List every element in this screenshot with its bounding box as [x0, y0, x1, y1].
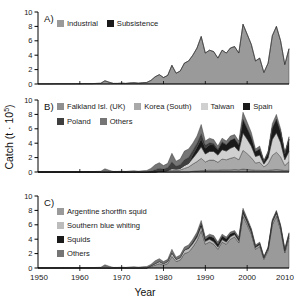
- legend-swatch-icon: [100, 118, 107, 125]
- legend-panel-b: Falkland Isl. (UK)Korea (South)TaiwanSpa…: [57, 102, 273, 126]
- x-tick-label: 1960: [71, 273, 89, 282]
- legend-row: Squids: [57, 235, 147, 244]
- y-axis-title-close: ): [3, 104, 15, 108]
- panel-b-label: B): [44, 101, 54, 112]
- figure-canvas: 0246810024681002468101950196019701980199…: [0, 0, 294, 300]
- legend-item-industrial: Industrial: [57, 19, 98, 28]
- legend-item-southern-blue-whiting: Southern blue whiting: [57, 221, 140, 230]
- legend-item-taiwan: Taiwan: [201, 102, 235, 111]
- y-tick-label: 6: [28, 124, 32, 133]
- y-tick-label: 2: [28, 65, 32, 74]
- legend-row: IndustrialSubsistence: [57, 19, 158, 28]
- x-tick-label: 2000: [238, 273, 256, 282]
- legend-swatch-icon: [107, 20, 114, 27]
- legend-item-falkland-isl-uk: Falkland Isl. (UK): [57, 102, 125, 111]
- y-tick-label: 4: [28, 51, 32, 60]
- legend-item-others: Others: [100, 117, 133, 126]
- y-tick-label: 0: [28, 168, 32, 177]
- legend-row: PolandOthers: [57, 117, 273, 126]
- legend-swatch-icon: [243, 103, 250, 110]
- legend-swatch-icon: [57, 118, 64, 125]
- legend-item-spain: Spain: [243, 102, 272, 111]
- x-tick-label: 1980: [155, 273, 173, 282]
- legend-swatch-icon: [134, 103, 141, 110]
- x-axis-title: Year: [134, 286, 155, 298]
- legend-label: Poland: [67, 117, 91, 126]
- y-axis-title: Catch (t · 105): [3, 104, 16, 169]
- legend-label: Others: [110, 117, 133, 126]
- area-industrial: [38, 24, 289, 84]
- x-tick-label: 1950: [30, 273, 48, 282]
- y-tick-label: 6: [28, 36, 32, 45]
- legend-row: Argentine shortfin squid: [57, 207, 147, 216]
- legend-swatch-icon: [57, 236, 64, 243]
- y-axis-title-superscript: 5: [3, 108, 10, 112]
- legend-label: Taiwan: [211, 102, 235, 111]
- y-tick-label: 2: [28, 249, 32, 258]
- legend-item-poland: Poland: [57, 117, 91, 126]
- y-tick-label: 10: [24, 8, 32, 17]
- panel-c-label: C): [44, 197, 54, 208]
- legend-item-squids: Squids: [57, 235, 90, 244]
- y-tick-label: 0: [28, 264, 32, 273]
- y-tick-label: 4: [28, 139, 32, 148]
- y-tick-label: 8: [28, 110, 32, 119]
- legend-row: Others: [57, 249, 147, 258]
- legend-item-subsistence: Subsistence: [107, 19, 158, 28]
- y-axis-title-text: Catch (t · 10: [3, 112, 15, 170]
- legend-label: Squids: [67, 235, 90, 244]
- legend-item-argentine-shortfin-squid: Argentine shortfin squid: [57, 207, 147, 216]
- y-tick-label: 10: [24, 96, 32, 105]
- legend-swatch-icon: [57, 20, 64, 27]
- y-tick-label: 4: [28, 235, 32, 244]
- legend-label: Subsistence: [117, 19, 158, 28]
- legend-swatch-icon: [201, 103, 208, 110]
- legend-label: Korea (South): [144, 102, 191, 111]
- y-tick-label: 8: [28, 22, 32, 31]
- legend-item-others: Others: [57, 249, 90, 258]
- legend-panel-a: IndustrialSubsistence: [57, 19, 158, 28]
- chart-canvas: 0246810024681002468101950196019701980199…: [0, 0, 294, 300]
- legend-label: Spain: [253, 102, 272, 111]
- y-tick-label: 10: [24, 192, 32, 201]
- legend-label: Falkland Isl. (UK): [67, 102, 125, 111]
- legend-row: Falkland Isl. (UK)Korea (South)TaiwanSpa…: [57, 102, 273, 111]
- legend-swatch-icon: [57, 208, 64, 215]
- legend-swatch-icon: [57, 222, 64, 229]
- y-tick-label: 0: [28, 80, 32, 89]
- y-tick-label: 6: [28, 220, 32, 229]
- x-tick-label: 2010: [276, 273, 294, 282]
- panel-a-label: A): [44, 13, 54, 24]
- legend-label: Industrial: [67, 19, 98, 28]
- legend-item-korea-south: Korea (South): [134, 102, 191, 111]
- legend-row: Southern blue whiting: [57, 221, 147, 230]
- x-tick-label: 1970: [113, 273, 131, 282]
- legend-panel-c: Argentine shortfin squidSouthern blue wh…: [57, 207, 147, 258]
- y-tick-label: 2: [28, 153, 32, 162]
- y-tick-label: 8: [28, 206, 32, 215]
- legend-label: Argentine shortfin squid: [67, 207, 147, 216]
- legend-label: Others: [67, 249, 90, 258]
- legend-label: Southern blue whiting: [67, 221, 140, 230]
- legend-swatch-icon: [57, 103, 64, 110]
- legend-swatch-icon: [57, 250, 64, 257]
- x-tick-label: 1990: [196, 273, 214, 282]
